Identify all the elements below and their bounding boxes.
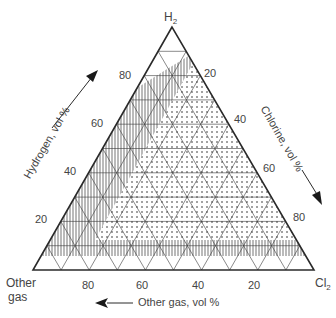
other-gas-arrow-icon — [95, 298, 133, 308]
vertex-other-line2: gas — [6, 290, 36, 304]
vertex-h-sub: 2 — [173, 17, 177, 26]
hydrogen-tick-60: 60 — [91, 118, 103, 129]
other-gas-tick-80: 80 — [82, 280, 94, 291]
other-gas-tick-60: 60 — [136, 280, 148, 291]
vertex-other-line1: Other — [6, 276, 36, 290]
vertex-cl-text: Cl — [315, 276, 326, 290]
vertex-h-text: H — [164, 10, 173, 24]
other-gas-tick-20: 20 — [248, 280, 260, 291]
vertex-label-other-gas: Other gas — [6, 276, 36, 304]
vertex-label-cl2: Cl2 — [315, 277, 331, 292]
chlorine-arrow-icon — [302, 170, 322, 205]
hydrogen-tick-80: 80 — [119, 70, 131, 81]
chlorine-tick-20: 20 — [204, 68, 216, 79]
hydrogen-tick-20: 20 — [35, 214, 47, 225]
vertex-cl-sub: 2 — [326, 283, 330, 292]
chlorine-tick-40: 40 — [234, 114, 246, 125]
chlorine-tick-60: 60 — [263, 163, 275, 174]
white-bottom-strip — [0, 256, 336, 276]
hydrogen-tick-40: 40 — [64, 166, 76, 177]
other-gas-axis-title: Other gas, vol % — [138, 297, 219, 308]
vertex-label-h2: H2 — [164, 11, 177, 26]
chlorine-tick-80: 80 — [293, 212, 305, 223]
other-gas-tick-40: 40 — [192, 280, 204, 291]
ternary-diagram — [0, 0, 336, 318]
